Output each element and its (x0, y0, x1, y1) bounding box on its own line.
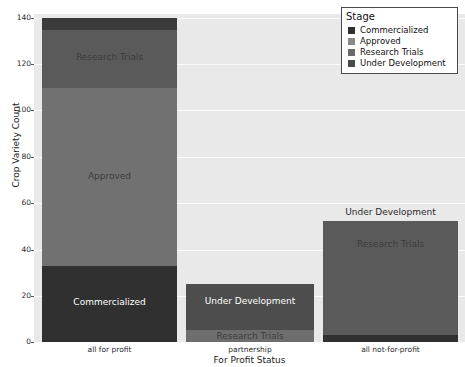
x-axis-label: For Profit Status (34, 355, 465, 365)
bar-segment-under-development[interactable] (186, 284, 314, 330)
y-tick-label: 40 (3, 246, 31, 254)
bar-segment-approved[interactable] (42, 88, 177, 266)
bar-segment-research-trials[interactable] (186, 330, 314, 342)
bar-label-under-development-all-not-for-profit: Under Development (323, 207, 458, 218)
bar-partnership[interactable]: Under Development Research Trials (186, 284, 314, 342)
bar-segment-under-development[interactable] (323, 335, 458, 342)
stacked-bar-chart: 140 120 100 80 60 40 20 0 Crop Variety C… (0, 0, 465, 367)
y-tick-mark (31, 342, 34, 343)
bar-all-for-profit[interactable]: Commercialized Approved Research Trials (42, 18, 177, 342)
bar-label-under-development-all-for-profit: Under Development (42, 14, 177, 15)
legend-item-label: Commercialized (360, 25, 428, 36)
legend-swatch-icon (348, 60, 355, 67)
legend-item-under-development[interactable]: Under Development (348, 58, 453, 69)
legend-item-approved[interactable]: Approved (348, 36, 453, 47)
x-tick-label-partnership: partnership (186, 345, 314, 354)
bar-segment-commercialized[interactable] (42, 266, 177, 342)
bar-segment-research-trials[interactable] (323, 221, 458, 335)
legend-item-research-trials[interactable]: Research Trials (348, 47, 453, 58)
legend-item-label: Research Trials (360, 47, 424, 58)
legend-swatch-icon (348, 27, 355, 34)
legend-item-label: Approved (360, 36, 401, 47)
x-tick-label-all-not-for-profit: all not-for-profit (323, 345, 458, 354)
y-tick-label: 120 (3, 60, 31, 68)
bar-all-not-for-profit[interactable]: Research Trials (323, 221, 458, 342)
x-tick-label-all-for-profit: all for profit (42, 345, 177, 354)
legend-swatch-icon (348, 38, 355, 45)
y-axis-label: Crop Variety Count (11, 85, 21, 205)
bar-segment-under-development[interactable] (42, 18, 177, 30)
legend[interactable]: Stage Commercialized Approved Research T… (341, 7, 458, 74)
y-tick-label: 0 (3, 338, 31, 346)
bar-segment-research-trials[interactable] (42, 30, 177, 88)
y-tick-label: 20 (3, 292, 31, 300)
legend-swatch-icon (348, 49, 355, 56)
legend-item-commercialized[interactable]: Commercialized (348, 25, 453, 36)
y-tick-label: 140 (3, 14, 31, 22)
legend-item-label: Under Development (360, 58, 446, 69)
legend-title: Stage (346, 11, 453, 23)
